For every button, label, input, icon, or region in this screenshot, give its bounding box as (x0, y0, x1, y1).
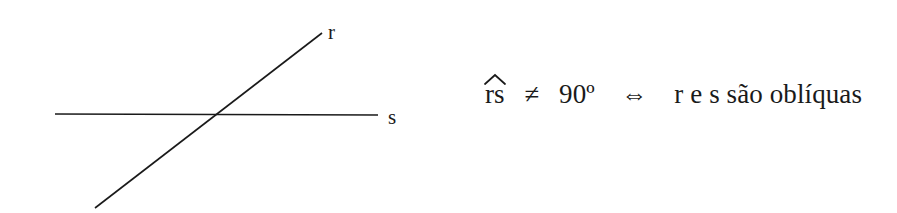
figure-root: r s rs ≠ 90º ⇔ r e s são oblíquas (0, 0, 897, 213)
statement-panel: rs ≠ 90º ⇔ r e s são oblíquas (440, 0, 897, 213)
line-label-s: s (388, 107, 396, 128)
angle-letters: rs (485, 78, 505, 112)
diagram-canvas (0, 0, 440, 213)
angle-rs-term: rs (485, 76, 505, 112)
angle-value: 90º (559, 79, 595, 109)
line-r (95, 33, 322, 208)
line-label-r: r (328, 22, 335, 43)
not-equal-icon: ≠ (522, 78, 541, 112)
oblique-lines-diagram: r s (0, 0, 440, 213)
if-and-only-if-icon: ⇔ (615, 79, 653, 112)
conclusion-text: r e s são oblíquas (674, 79, 862, 109)
oblique-condition-statement: rs ≠ 90º ⇔ r e s são oblíquas (485, 76, 862, 112)
